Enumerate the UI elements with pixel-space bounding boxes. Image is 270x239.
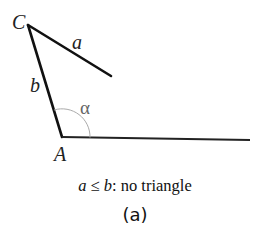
condition-text: a ≤ b: no triangle [0,176,270,196]
triangle-diagram: C a b α A a ≤ b: no triangle (a) [0,0,270,239]
side-b-label: b [30,75,40,95]
figure-caption: (a) [0,204,270,225]
angle-alpha-label: α [80,98,90,117]
vertex-a-label: A [54,144,66,164]
condition-rhs: b [104,176,112,195]
side-a-label: a [72,32,82,52]
vertex-c-label: C [12,12,25,32]
condition-operator: ≤ [86,176,103,195]
condition-result: : no triangle [112,176,192,195]
